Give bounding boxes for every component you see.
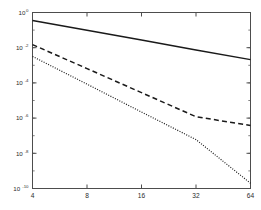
- figure-canvas: 10010-210-410-610-810-10 48163264: [0, 0, 261, 210]
- y-tick-label-exponent: -4: [25, 78, 29, 83]
- x-tick-label: 64: [247, 192, 255, 199]
- y-tick-label: 10: [16, 79, 23, 86]
- log-log-convergence-chart: 10010-210-410-610-810-10 48163264: [0, 0, 261, 210]
- y-tick-label-exponent: -6: [25, 113, 29, 118]
- y-tick-label-exponent: -2: [25, 43, 29, 48]
- chart-background: [0, 0, 261, 210]
- y-tick-label: 10: [16, 150, 23, 157]
- x-tick-label: 8: [85, 192, 89, 199]
- y-tick-label: 10: [16, 114, 23, 121]
- x-tick-label: 32: [192, 192, 200, 199]
- y-tick-label-exponent: -10: [22, 184, 29, 189]
- x-tick-label: 16: [138, 192, 146, 199]
- y-tick-label: 10: [19, 9, 26, 16]
- y-tick-label-exponent: -8: [25, 149, 29, 154]
- y-tick-label: 10: [13, 185, 20, 192]
- x-tick-label: 4: [31, 192, 35, 199]
- y-tick-label: 10: [16, 44, 23, 51]
